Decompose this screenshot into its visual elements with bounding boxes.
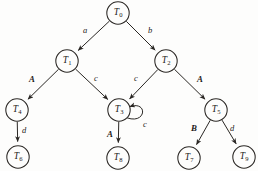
edge-t5-to-t7 <box>197 120 211 144</box>
node-base-t0: T <box>114 7 119 17</box>
edge-t1-to-t3 <box>76 69 108 99</box>
edge-label-t2-t5: A <box>197 75 203 84</box>
node-base-t3: T <box>115 104 120 114</box>
node-base-t8: T <box>114 152 119 162</box>
edges-layer <box>17 21 236 144</box>
edge-label-t0-t1: a <box>83 26 87 35</box>
node-base-t9: T <box>240 151 245 161</box>
node-subscript-t6: 6 <box>19 155 22 162</box>
node-subscript-t8: 8 <box>119 156 122 163</box>
edge-label-t0-t2: b <box>148 26 152 35</box>
node-label-t9: T9 <box>240 152 249 162</box>
node-subscript-t0: 0 <box>119 11 122 18</box>
node-label-t6: T6 <box>14 152 23 162</box>
node-base-t4: T <box>13 104 18 114</box>
node-base-t2: T <box>162 55 167 65</box>
node-subscript-t2: 2 <box>167 59 170 66</box>
node-base-t5: T <box>212 104 217 114</box>
edge-label-t5-t7: B <box>191 124 197 133</box>
edge-label-t1-t4: A <box>29 75 35 84</box>
node-label-t3: T3 <box>115 105 124 115</box>
node-label-t8: T8 <box>114 153 123 163</box>
node-subscript-t5: 5 <box>217 108 220 115</box>
edge-label-t1-t3: c <box>94 74 98 83</box>
node-subscript-t7: 7 <box>190 156 193 163</box>
node-label-t5: T5 <box>212 105 221 115</box>
edge-label-t2-t3: c <box>134 74 138 83</box>
edge-label-t5-t9: d <box>230 124 234 133</box>
node-label-t0: T0 <box>114 8 123 18</box>
edge-label-t3-t8: A <box>107 130 113 139</box>
edge-label-t4-t6: d <box>22 126 26 135</box>
node-subscript-t3: 3 <box>120 108 123 115</box>
node-label-t2: T2 <box>162 56 171 66</box>
graph-canvas <box>0 0 258 171</box>
node-base-t1: T <box>63 55 68 65</box>
node-label-t1: T1 <box>63 56 72 66</box>
self-loop-label-t3: c <box>143 120 147 129</box>
node-label-t4: T4 <box>13 105 22 115</box>
node-label-t7: T7 <box>185 153 194 163</box>
node-subscript-t4: 4 <box>18 108 21 115</box>
node-subscript-t1: 1 <box>68 59 71 66</box>
nodes-layer <box>6 2 255 169</box>
node-subscript-t9: 9 <box>245 155 248 162</box>
graph-diagram: T0T1T2T4T3T5T6T8T7T9 abAccAdABdc <box>0 0 258 171</box>
node-base-t7: T <box>185 152 190 162</box>
node-base-t6: T <box>14 151 19 161</box>
